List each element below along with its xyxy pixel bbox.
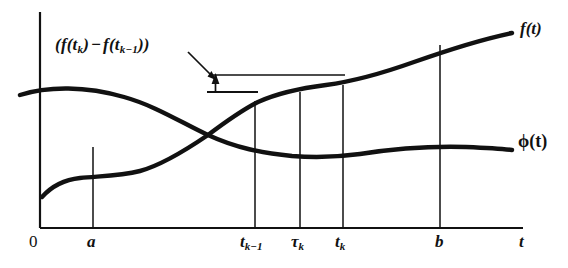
- x-axis-label: t: [519, 233, 524, 250]
- annot-close2: )): [138, 35, 150, 54]
- tick-label-b: b: [435, 233, 444, 250]
- annot-sub2: k−1: [120, 43, 138, 55]
- annot-t1: (t: [67, 35, 78, 54]
- annot-sub1: k: [78, 43, 84, 55]
- difference-annotation-label: (f(tk)−f(tk−1)): [55, 36, 150, 53]
- tick-label-tau-k: τk: [291, 233, 304, 250]
- tick-label-tk-1: tk−1: [240, 233, 262, 250]
- annot-t2: (t: [109, 35, 120, 54]
- phi-curve-label: ϕ(t): [518, 132, 547, 150]
- f-curve: [42, 33, 512, 197]
- annot-operator: −: [89, 35, 103, 54]
- origin-label: 0: [29, 233, 38, 250]
- tick-label-tk: tk: [335, 233, 345, 250]
- f-curve-label: f(t): [520, 20, 542, 37]
- tick-label-a: a: [87, 233, 96, 250]
